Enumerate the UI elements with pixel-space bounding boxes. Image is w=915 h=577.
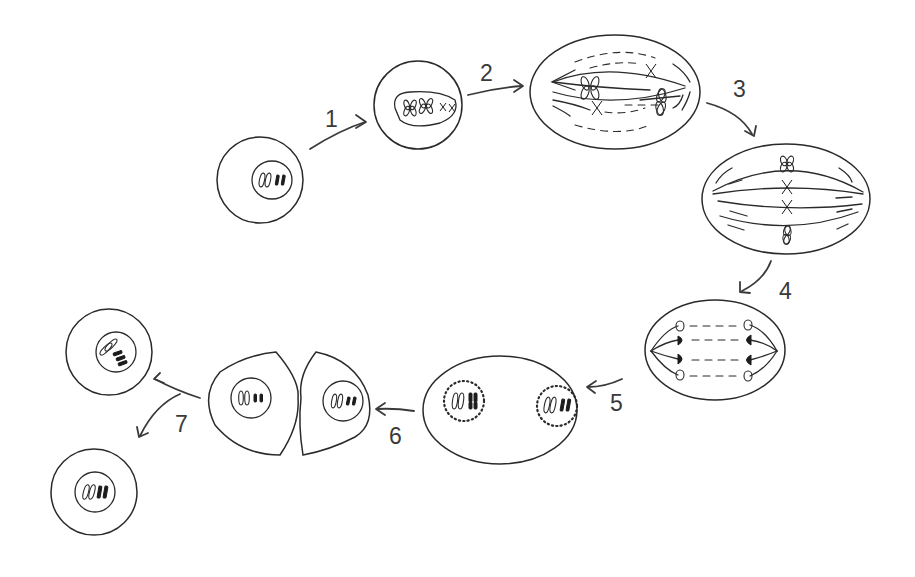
step-label-2: 2 — [480, 62, 493, 85]
chromosomes — [258, 173, 285, 188]
arrow-step-2 — [468, 80, 523, 95]
step-label-6: 6 — [389, 425, 402, 448]
step-label-1: 1 — [325, 108, 338, 131]
right-nucleus — [323, 381, 363, 421]
right-chromatids — [744, 320, 777, 381]
daughter-cell-bottom — [51, 449, 137, 535]
arrow-step-7 — [137, 373, 200, 437]
interphase-cell — [217, 137, 303, 223]
step-label-3: 3 — [733, 78, 746, 101]
arrow-step-4 — [740, 261, 771, 293]
spindle-fibers — [713, 168, 863, 230]
daughter-cell-top — [66, 309, 152, 395]
metaphase-cell — [702, 144, 870, 254]
step-label-7: 7 — [175, 413, 188, 436]
left-nucleus — [444, 381, 484, 421]
dashed-fibers — [690, 326, 740, 376]
prophase-cell — [374, 61, 462, 149]
arrow-step-3 — [707, 103, 756, 136]
spindle-fibers — [552, 64, 690, 116]
left-nucleus — [231, 378, 271, 418]
left-chromatids — [651, 321, 684, 380]
chromosomes — [403, 98, 455, 117]
prometaphase-cell — [530, 35, 700, 149]
step-label-5: 5 — [610, 392, 623, 415]
cytokinesis-cells — [209, 352, 370, 455]
dashed-fibers — [575, 52, 660, 131]
arrow-step-1 — [310, 115, 366, 149]
mitosis-diagram — [0, 0, 915, 577]
arrow-step-6 — [376, 403, 414, 415]
right-nucleus — [537, 386, 577, 426]
anaphase-cell — [645, 300, 785, 400]
telophase-cell — [423, 356, 577, 464]
step-label-4: 4 — [779, 280, 792, 303]
chromosomes — [779, 155, 795, 245]
